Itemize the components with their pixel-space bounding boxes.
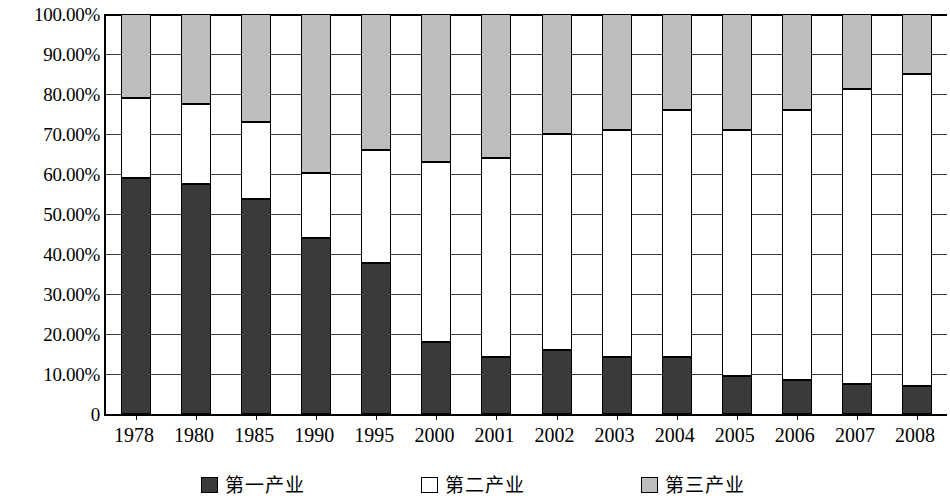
bar-segment-第一产业 [181,184,211,414]
bar-2005 [722,14,752,414]
bar-group [106,14,947,414]
bar-segment-第三产业 [241,14,271,122]
bar-segment-第二产业 [361,150,391,263]
bar-segment-第二产业 [301,173,331,238]
bar-2008 [902,14,932,414]
y-axis-tick-label: 50.00% [0,205,100,224]
y-axis-tick-label: 90.00% [0,45,100,64]
plot-area [104,14,947,416]
legend-swatch-icon [641,477,658,493]
legend-label: 第二产业 [445,476,525,495]
bar-segment-第二产业 [542,134,572,350]
bar-segment-第一产业 [421,342,451,414]
bar-segment-第二产业 [121,98,151,178]
y-axis-tick-label: 30.00% [0,285,100,304]
chart-legend: 第一产业第二产业第三产业 [0,468,945,502]
y-axis-tick-label: 0 [0,405,100,424]
bar-1978 [121,14,151,414]
bar-segment-第二产业 [722,130,752,376]
bar-segment-第三产业 [361,14,391,150]
bar-2007 [842,14,872,414]
bar-2000 [421,14,451,414]
bar-2003 [602,14,632,414]
bar-segment-第二产业 [181,104,211,184]
bar-segment-第三产业 [121,14,151,98]
bar-segment-第三产业 [542,14,572,134]
bar-segment-第二产业 [241,122,271,199]
bar-segment-第三产业 [181,14,211,104]
bar-1995 [361,14,391,414]
bar-segment-第二产业 [481,158,511,357]
bar-segment-第一产业 [301,238,331,414]
y-axis-tick-label: 100.00% [0,5,100,24]
bar-segment-第二产业 [902,74,932,386]
bar-segment-第二产业 [782,110,812,380]
bar-segment-第二产业 [421,162,451,342]
bar-2006 [782,14,812,414]
legend-swatch-icon [201,477,218,493]
bar-segment-第三产业 [782,14,812,110]
legend-item: 第一产业 [201,476,305,495]
legend-item: 第二产业 [421,476,525,495]
bar-segment-第一产业 [842,384,872,414]
bar-segment-第三产业 [301,14,331,173]
bar-segment-第一产业 [542,350,572,414]
bar-segment-第二产业 [842,89,872,384]
bar-2004 [662,14,692,414]
bar-segment-第一产业 [902,386,932,414]
bar-2002 [542,14,572,414]
bar-1985 [241,14,271,414]
legend-item: 第三产业 [641,476,745,495]
bar-1980 [181,14,211,414]
bar-segment-第一产业 [361,263,391,414]
y-axis: 100.00%90.00%80.00%70.00%60.00%50.00%40.… [0,0,100,430]
bar-1990 [301,14,331,414]
y-axis-tick-label: 80.00% [0,85,100,104]
legend-label: 第三产业 [665,476,745,495]
bar-segment-第一产业 [722,376,752,414]
bar-segment-第二产业 [602,130,632,357]
y-axis-tick-label: 70.00% [0,125,100,144]
y-axis-tick-label: 20.00% [0,325,100,344]
bar-segment-第一产业 [602,357,632,414]
bar-segment-第三产业 [421,14,451,162]
x-axis: 1978198019851990199520002001200220032004… [104,420,945,454]
bar-segment-第三产业 [662,14,692,110]
y-axis-tick-label: 60.00% [0,165,100,184]
bar-segment-第一产业 [662,357,692,414]
bar-segment-第三产业 [902,14,932,74]
bar-segment-第二产业 [662,110,692,357]
bar-2001 [481,14,511,414]
x-axis-tick-label: 2008 [880,420,950,450]
bar-segment-第一产业 [121,178,151,414]
bar-segment-第三产业 [722,14,752,130]
bar-segment-第三产业 [602,14,632,130]
y-axis-tick-label: 10.00% [0,365,100,384]
bar-segment-第三产业 [842,14,872,89]
legend-label: 第一产业 [225,476,305,495]
bar-segment-第一产业 [241,199,271,414]
legend-swatch-icon [421,477,438,493]
bar-segment-第一产业 [481,357,511,414]
bar-segment-第一产业 [782,380,812,414]
y-axis-tick-label: 40.00% [0,245,100,264]
bar-segment-第三产业 [481,14,511,158]
